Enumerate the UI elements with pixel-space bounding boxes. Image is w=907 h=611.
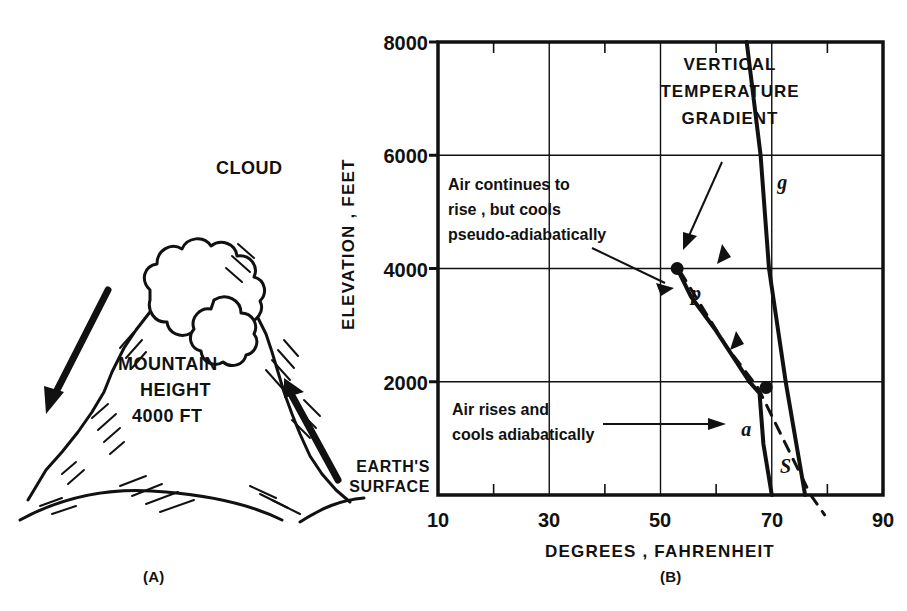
foreground-terrain (20, 490, 364, 522)
adiabatic-note-line1: Air rises and (452, 401, 549, 418)
mountain-height-line2: HEIGHT (140, 380, 211, 400)
x-tick-label-50: 50 (649, 509, 671, 531)
legend-line3: GRADIENT (682, 109, 779, 128)
curve-label-g: g (776, 171, 787, 194)
y-tick-label-2000: 2000 (384, 372, 429, 394)
chart-canvas: ELEVATION , FEET 8000 6000 4000 2000 EAR… (330, 0, 907, 611)
x-tick-label-10: 10 (427, 509, 449, 531)
adiabatic-note-line2: cools adiabatically (452, 426, 594, 443)
earths-surface-label-line1: EARTH'S (356, 458, 430, 475)
y-tick-label-4000: 4000 (384, 259, 429, 281)
earths-surface-label-line2: SURFACE (349, 478, 430, 495)
rise-direction-arrows (717, 244, 744, 350)
curve-a (750, 382, 772, 495)
curve-label-p: p (689, 282, 701, 305)
pseudo-adiabatic-note-line2: rise , but cools (448, 201, 561, 218)
cloud-shape (144, 239, 264, 366)
panel-b-thermodynamic-chart: ELEVATION , FEET 8000 6000 4000 2000 EAR… (330, 0, 907, 611)
x-tick-label-70: 70 (761, 509, 783, 531)
y-tick-label-6000: 6000 (384, 145, 429, 167)
y-axis-title: ELEVATION , FEET (339, 158, 358, 330)
cloud-base-point (671, 262, 684, 275)
x-tick-label-30: 30 (538, 509, 560, 531)
legend-line1: VERTICAL (684, 55, 777, 74)
lifting-point (760, 381, 773, 394)
mountain-height-line1: MOUNTAIN (118, 354, 218, 374)
vertical-gradient-legend: VERTICAL TEMPERATURE GRADIENT (660, 55, 799, 250)
legend-line2: TEMPERATURE (660, 82, 799, 101)
surface-point-label: S (780, 455, 791, 477)
panel-a-caption: (A) (143, 568, 164, 585)
cloud-label: CLOUD (216, 158, 283, 178)
x-tick-label-90: 90 (872, 509, 894, 531)
x-axis-title: DEGREES , FAHRENHEIT (545, 542, 775, 561)
pseudo-adiabatic-note-line1: Air continues to (448, 176, 570, 193)
descending-air-arrow (44, 290, 108, 414)
pseudo-adiabatic-note: Air continues to rise , but cools pseudo… (448, 176, 674, 296)
curve-label-a: a (741, 418, 751, 440)
adiabatic-note: Air rises and cools adiabatically (452, 401, 726, 443)
y-tick-label-8000: 8000 (384, 32, 429, 54)
mountain-height-line3: 4000 FT (132, 406, 203, 426)
pseudo-adiabatic-note-line3: pseudo-adiabatically (448, 226, 606, 243)
